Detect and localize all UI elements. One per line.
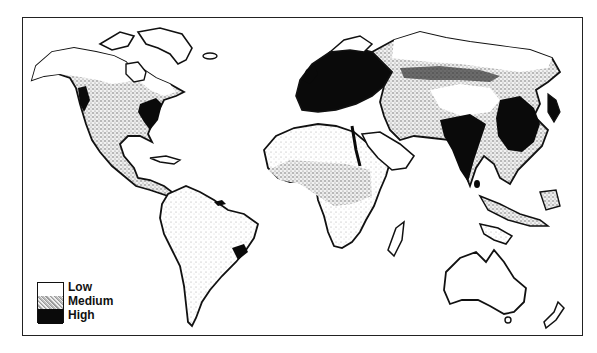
scandinavia (330, 36, 372, 52)
greenland (138, 28, 192, 64)
indonesia (480, 196, 548, 226)
legend-label-high: High (68, 308, 113, 322)
australia (444, 250, 526, 314)
south-america (160, 186, 258, 326)
iceland (203, 53, 217, 59)
new-zealand (544, 302, 564, 328)
arctic-islands (100, 32, 134, 50)
legend-swatch-high (38, 309, 63, 324)
caribbean (150, 156, 180, 164)
legend-label-low: Low (68, 280, 113, 294)
legend-label-medium: Medium (68, 294, 113, 308)
legend-swatch-low (38, 283, 63, 297)
japan (548, 94, 560, 122)
madagascar (388, 222, 404, 256)
tasmania (505, 317, 511, 323)
new-guinea (480, 224, 512, 244)
legend-swatch-medium (38, 296, 63, 309)
legend-swatches (37, 282, 64, 323)
